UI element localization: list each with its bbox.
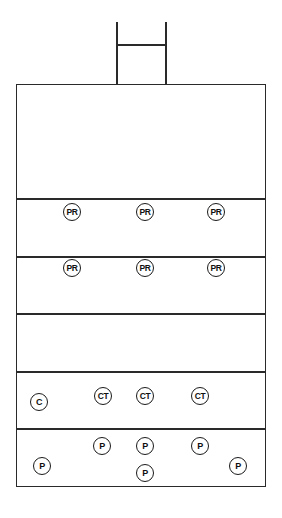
marker-p: P (136, 464, 154, 482)
divider-4 (16, 371, 266, 373)
marker-c: C (30, 393, 48, 411)
tower-crossbar (116, 44, 166, 46)
divider-3 (16, 313, 266, 315)
marker-ct: CT (94, 387, 112, 405)
divider-5 (16, 428, 266, 430)
marker-p: P (229, 457, 247, 475)
marker-pr: PR (63, 259, 81, 277)
tower-left-post (116, 22, 118, 84)
marker-pr: PR (136, 203, 154, 221)
marker-ct: CT (191, 387, 209, 405)
marker-pr: PR (207, 259, 225, 277)
outer-box (16, 84, 266, 487)
marker-pr: PR (63, 203, 81, 221)
marker-pr: PR (207, 203, 225, 221)
marker-p: P (33, 457, 51, 475)
marker-ct: CT (136, 387, 154, 405)
marker-pr: PR (136, 259, 154, 277)
marker-p: P (191, 437, 209, 455)
marker-p: P (93, 437, 111, 455)
divider-2 (16, 256, 266, 258)
tower-right-post (165, 22, 167, 84)
marker-p: P (136, 437, 154, 455)
divider-1 (16, 198, 266, 200)
